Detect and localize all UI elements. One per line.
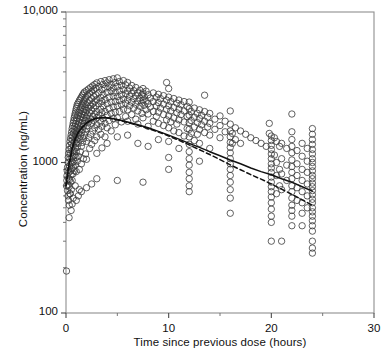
y-tick-label-1000: 1000	[0, 155, 58, 167]
x-tick-label-10: 10	[129, 322, 209, 334]
plot-frame	[66, 12, 374, 313]
x-tick-label-20: 20	[231, 322, 311, 334]
x-tick-label-30: 30	[334, 322, 385, 334]
y-tick-label-10000: 10,000	[0, 4, 58, 16]
x-tick-label-0: 0	[26, 322, 106, 334]
concentration-vs-time-scatter-plot: 10,000 1000 100 0 10 20 30 Concentration…	[0, 0, 385, 357]
y-axis-label: Concentration (ng/mL)	[17, 84, 29, 254]
x-axis-label: Time since previous dose (hours)	[66, 336, 374, 348]
plot-canvas	[0, 0, 385, 357]
y-tick-label-100: 100	[0, 305, 58, 317]
